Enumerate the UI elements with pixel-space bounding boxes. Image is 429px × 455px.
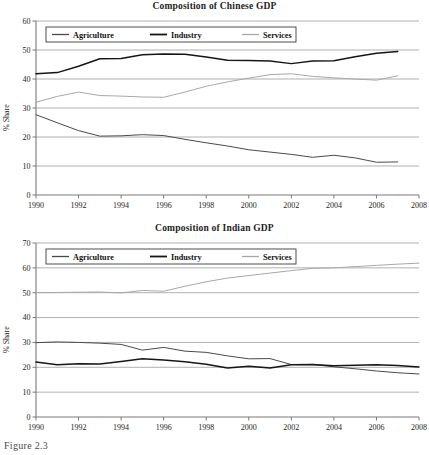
y-tick-label: 0 bbox=[27, 413, 31, 422]
chart-indian-gdp: Composition of Indian GDP % Share 010203… bbox=[0, 222, 429, 437]
y-tick-label: 50 bbox=[23, 289, 31, 298]
chart-chinese-gdp: Composition of Chinese GDP % Share 01020… bbox=[0, 0, 429, 218]
y-axis-label-chinese: % Share bbox=[2, 104, 11, 131]
legend-label-agriculture: Agriculture bbox=[73, 31, 114, 40]
y-tick-label: 10 bbox=[23, 162, 31, 171]
series-line-services bbox=[36, 74, 398, 102]
x-tick-label: 2002 bbox=[283, 423, 299, 432]
series-line-agriculture bbox=[36, 115, 398, 163]
x-tick-label: 2006 bbox=[368, 423, 384, 432]
y-tick-label: 20 bbox=[23, 363, 31, 372]
y-tick-label: 50 bbox=[23, 46, 31, 55]
y-tick-label: 70 bbox=[23, 239, 31, 248]
plot-svg-chinese: 0102030405060199019921994199619982000200… bbox=[0, 13, 429, 218]
x-tick-label: 1994 bbox=[113, 201, 129, 210]
y-tick-label: 40 bbox=[23, 75, 31, 84]
x-tick-label: 1996 bbox=[156, 201, 172, 210]
legend-label-services: Services bbox=[263, 31, 292, 40]
y-tick-label: 10 bbox=[23, 388, 31, 397]
chart-title-indian: Composition of Indian GDP bbox=[0, 222, 429, 235]
x-tick-label: 1992 bbox=[71, 201, 87, 210]
legend-label-industry: Industry bbox=[171, 253, 202, 262]
x-tick-label: 1994 bbox=[113, 423, 129, 432]
x-tick-label: 2004 bbox=[326, 423, 342, 432]
plot-area-chinese: % Share 01020304050601990199219941996199… bbox=[0, 13, 429, 218]
y-tick-label: 30 bbox=[23, 338, 31, 347]
plot-svg-indian: 0102030405060701990199219941996199820002… bbox=[0, 235, 429, 440]
x-tick-label: 2008 bbox=[411, 201, 427, 210]
legend-label-agriculture: Agriculture bbox=[73, 253, 114, 262]
x-tick-label: 1990 bbox=[28, 201, 44, 210]
legend-label-services: Services bbox=[263, 253, 292, 262]
x-tick-label: 2000 bbox=[241, 201, 257, 210]
y-tick-label: 30 bbox=[23, 104, 31, 113]
x-tick-label: 2002 bbox=[283, 201, 299, 210]
series-line-industry bbox=[36, 359, 419, 368]
y-tick-label: 60 bbox=[23, 17, 31, 26]
series-line-agriculture bbox=[36, 342, 419, 374]
x-tick-label: 1998 bbox=[198, 423, 214, 432]
x-tick-label: 2000 bbox=[241, 423, 257, 432]
x-tick-label: 1998 bbox=[198, 201, 214, 210]
chart-title-chinese: Composition of Chinese GDP bbox=[0, 0, 429, 13]
x-tick-label: 2008 bbox=[411, 423, 427, 432]
y-tick-label: 0 bbox=[27, 191, 31, 200]
figure-caption: Figure 2.3 bbox=[4, 440, 164, 453]
series-line-industry bbox=[36, 51, 398, 73]
x-tick-label: 1992 bbox=[71, 423, 87, 432]
plot-area-indian: % Share 01020304050607019901992199419961… bbox=[0, 235, 429, 440]
x-tick-label: 2006 bbox=[368, 201, 384, 210]
y-axis-label-indian: % Share bbox=[2, 326, 11, 353]
y-tick-label: 60 bbox=[23, 264, 31, 273]
y-tick-label: 20 bbox=[23, 133, 31, 142]
y-tick-label: 40 bbox=[23, 313, 31, 322]
x-tick-label: 1996 bbox=[156, 423, 172, 432]
legend-label-industry: Industry bbox=[171, 31, 202, 40]
x-tick-label: 2004 bbox=[326, 201, 342, 210]
x-tick-label: 1990 bbox=[28, 423, 44, 432]
